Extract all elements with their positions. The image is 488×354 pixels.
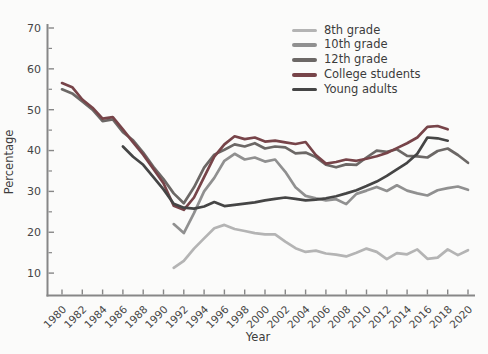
- x-tick-label: 2018: [427, 303, 454, 330]
- y-tick-label: 10: [27, 267, 41, 280]
- x-tick-label: 1998: [224, 303, 251, 330]
- series-line-8th-grade: [174, 225, 468, 268]
- y-tick-label: 40: [27, 144, 41, 157]
- legend-label-college-students: College students: [324, 69, 421, 81]
- legend-swatch-young-adults: [292, 88, 317, 92]
- x-tick-label: 1990: [143, 303, 170, 330]
- line-chart-figure: Percentage Year 102030405060701980198219…: [0, 0, 488, 354]
- legend-swatch-8th-grade: [292, 29, 317, 33]
- y-tick-label: 20: [27, 226, 41, 239]
- legend-label-young-adults: Young adults: [324, 84, 397, 96]
- x-tick-label: 2012: [366, 303, 393, 330]
- legend-label-8th-grade: 8th grade: [324, 25, 380, 37]
- legend-item-8th-grade: 8th grade: [292, 23, 421, 38]
- legend-item-college-students: College students: [292, 67, 421, 82]
- series-line-10th-grade: [174, 154, 468, 233]
- x-tick-label: 2000: [244, 303, 271, 330]
- legend-item-young-adults: Young adults: [292, 82, 421, 97]
- legend-item-10th-grade: 10th grade: [292, 38, 421, 53]
- chart-legend: 8th grade 10th grade 12th grade College …: [292, 23, 421, 97]
- legend-swatch-college-students: [292, 73, 317, 77]
- x-axis-title: Year: [245, 330, 271, 344]
- x-tick-label: 1988: [122, 303, 149, 330]
- legend-label-12th-grade: 12th grade: [324, 54, 388, 66]
- x-tick-label: 2020: [447, 303, 474, 330]
- x-tick-label: 2008: [325, 303, 352, 330]
- y-tick-label: 60: [27, 63, 41, 76]
- x-tick-label: 1982: [61, 303, 88, 330]
- x-tick-label: 1980: [41, 303, 68, 330]
- legend-swatch-10th-grade: [292, 43, 317, 47]
- x-tick-label: 1992: [163, 303, 190, 330]
- legend-swatch-12th-grade: [292, 58, 317, 62]
- y-tick-label: 50: [27, 104, 41, 117]
- x-tick-label: 2002: [264, 303, 291, 330]
- legend-item-12th-grade: 12th grade: [292, 53, 421, 68]
- y-axis-title: Percentage: [2, 130, 16, 195]
- y-tick-label: 30: [27, 185, 41, 198]
- y-tick-label: 70: [27, 22, 41, 35]
- x-tick-label: 2010: [346, 303, 373, 330]
- legend-label-10th-grade: 10th grade: [324, 39, 388, 51]
